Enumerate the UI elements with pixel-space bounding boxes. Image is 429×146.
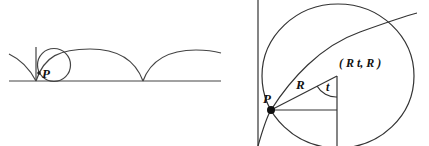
radius-label: R [295, 77, 305, 92]
point-p-label-right: P [263, 91, 272, 106]
left-figure [9, 47, 221, 82]
point-p-label-left: P [42, 66, 51, 81]
point-p-dot [37, 71, 41, 75]
cycloid-arch-1 [36, 49, 143, 81]
cycloid-arch-2 [143, 50, 221, 81]
rolling-circle-large [262, 4, 414, 146]
center-coordinates-label: ( R t, R ) [339, 56, 381, 70]
right-figure [258, 0, 417, 146]
cycloid-diagram: P P R t ( R t, R ) [0, 0, 429, 146]
point-p-dot-large [267, 106, 275, 114]
cycloid-arc-left-partial [9, 54, 36, 81]
angle-label: t [326, 80, 330, 94]
